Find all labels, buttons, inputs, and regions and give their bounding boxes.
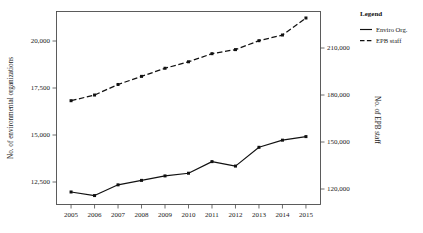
data-point-marker — [257, 146, 260, 149]
data-point-marker — [187, 60, 190, 63]
right-axis-tick-label: 120,000 — [327, 185, 350, 193]
legend-item-enviro-org[interactable]: Enviro Org. — [360, 26, 408, 33]
data-point-marker — [164, 67, 167, 70]
right-axis-title: No. of EPB staff — [373, 96, 381, 144]
x-axis: 2005200620072008200920102011201220132014… — [64, 205, 313, 219]
right-axis-tick-label: 210,000 — [327, 44, 350, 52]
data-point-marker — [93, 94, 96, 97]
data-point-marker — [281, 34, 284, 37]
data-point-marker — [140, 179, 143, 182]
legend-item-label: EPB staff — [376, 37, 402, 44]
data-point-marker — [93, 194, 96, 197]
x-axis-tick-label: 2009 — [158, 211, 173, 219]
data-point-marker — [70, 190, 73, 193]
series-line-enviro-org — [71, 137, 306, 196]
data-point-marker — [234, 48, 237, 51]
x-axis-tick-label: 2013 — [252, 211, 267, 219]
data-point-marker — [281, 139, 284, 142]
left-axis-tick-label: 12,500 — [31, 178, 51, 186]
data-point-marker — [117, 183, 120, 186]
legend-item-epb-staff[interactable]: EPB staff — [360, 37, 402, 44]
series-layer — [70, 16, 308, 197]
data-point-marker — [234, 165, 237, 168]
x-axis-tick-label: 2008 — [135, 211, 150, 219]
x-axis-tick-label: 2014 — [275, 211, 290, 219]
left-axis-tick-label: 15,000 — [31, 131, 51, 139]
left-axis: 20,000 17,500 15,000 12,500 No. of envir… — [7, 37, 57, 186]
data-point-marker — [70, 99, 73, 102]
data-point-marker — [140, 75, 143, 78]
data-point-marker — [187, 172, 190, 175]
data-point-marker — [210, 52, 213, 55]
left-axis-tick-label: 20,000 — [31, 37, 51, 45]
x-axis-tick-label: 2010 — [182, 211, 197, 219]
x-axis-tick-label: 2012 — [228, 211, 243, 219]
data-point-marker — [117, 83, 120, 86]
data-point-marker — [304, 16, 307, 19]
data-point-marker — [210, 160, 213, 163]
x-axis-tick-label: 2006 — [88, 211, 103, 219]
data-point-marker — [257, 39, 260, 42]
series-line-epb-staff — [71, 18, 306, 101]
x-axis-tick-label: 2011 — [205, 211, 219, 219]
left-axis-tick-label: 17,500 — [31, 84, 51, 92]
legend-item-label: Enviro Org. — [376, 26, 408, 33]
data-point-marker — [304, 135, 307, 138]
legend-title: Legend — [360, 10, 382, 18]
left-axis-title: No. of environmental organizations — [7, 57, 15, 159]
right-axis: 210,000 180,000 150,000 120,000 No. of E… — [321, 44, 382, 193]
data-point-marker — [164, 174, 167, 177]
legend: Legend Enviro Org. EPB staff — [360, 10, 408, 44]
plot-frame — [57, 12, 321, 205]
right-axis-tick-label: 180,000 — [327, 91, 350, 99]
x-axis-tick-label: 2005 — [64, 211, 79, 219]
chart-figure: 20,000 17,500 15,000 12,500 No. of envir… — [0, 0, 423, 233]
x-axis-tick-label: 2015 — [299, 211, 314, 219]
right-axis-tick-label: 150,000 — [327, 138, 350, 146]
x-axis-tick-label: 2007 — [111, 211, 126, 219]
